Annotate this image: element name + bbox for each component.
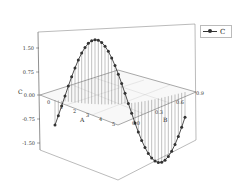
data-point — [54, 124, 57, 127]
svg-text:2: 2 — [73, 108, 76, 114]
data-point — [67, 85, 70, 88]
data-point — [140, 139, 143, 142]
data-point — [184, 116, 187, 119]
data-point — [114, 64, 117, 67]
svg-text:5: 5 — [112, 121, 115, 127]
data-point — [167, 155, 170, 158]
legend-marker-icon — [208, 29, 212, 33]
data-point — [117, 73, 120, 76]
z-axis-title: C — [18, 88, 23, 95]
data-point — [90, 39, 93, 42]
data-point — [170, 150, 173, 153]
svg-text:0.75: 0.75 — [23, 69, 34, 75]
data-point — [74, 66, 77, 69]
data-point — [87, 42, 90, 45]
data-point — [104, 45, 107, 48]
data-point — [77, 58, 80, 61]
svg-text:0.9: 0.9 — [196, 90, 204, 96]
svg-text:0.00: 0.00 — [24, 92, 35, 98]
data-point — [60, 104, 63, 107]
data-point — [154, 160, 157, 163]
box-edge — [118, 140, 196, 180]
data-point — [124, 92, 127, 95]
z-axis-line — [38, 32, 40, 150]
data-point — [157, 161, 160, 164]
data-point — [57, 114, 60, 117]
data-point — [97, 39, 100, 42]
data-point — [137, 131, 140, 134]
legend: C — [200, 25, 232, 38]
data-point — [107, 50, 110, 53]
data-point — [147, 152, 150, 155]
data-point — [84, 46, 87, 49]
data-point — [64, 94, 67, 97]
data-point — [80, 52, 83, 55]
box-edge — [195, 24, 196, 140]
legend-label: C — [220, 28, 225, 36]
data-point — [94, 38, 97, 41]
data-point — [110, 56, 113, 59]
svg-text:-0.75: -0.75 — [22, 116, 35, 122]
data-point — [127, 102, 130, 105]
data-point — [177, 135, 180, 138]
data-point — [180, 126, 183, 129]
x-axis-title: A — [79, 116, 85, 123]
data-point — [144, 146, 147, 149]
svg-text:3: 3 — [86, 112, 89, 118]
data-point — [70, 75, 73, 78]
data-point — [164, 159, 167, 162]
data-point — [150, 157, 153, 160]
data-point — [100, 41, 103, 44]
zero-plane — [40, 70, 196, 125]
svg-text:1.50: 1.50 — [23, 45, 34, 51]
z-ticks: 1.50 0.75 0.00 -0.75 -1.50 — [22, 45, 40, 146]
data-point — [160, 161, 163, 164]
data-point — [130, 112, 133, 115]
box-edge — [38, 24, 195, 32]
svg-text:0: 0 — [47, 99, 50, 105]
svg-text:4: 4 — [99, 116, 102, 122]
data-point — [174, 143, 177, 146]
data-point — [134, 122, 137, 125]
legend-line-icon — [203, 31, 217, 32]
svg-text:-1.50: -1.50 — [22, 140, 35, 146]
data-point — [120, 82, 123, 85]
y-axis-title: B — [163, 116, 168, 123]
svg-text:0.6: 0.6 — [176, 99, 184, 105]
box-edge — [40, 150, 118, 180]
